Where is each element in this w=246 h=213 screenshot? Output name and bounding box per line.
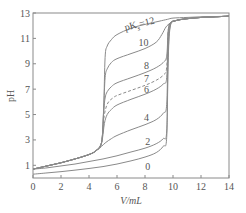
curve-pk-8 bbox=[33, 16, 229, 169]
curve-pk-10 bbox=[33, 16, 229, 169]
y-axis: 135791113 bbox=[20, 8, 36, 171]
label-value: =12 bbox=[138, 15, 156, 29]
y-axis-title: pH bbox=[5, 90, 16, 102]
y-tick-label: 11 bbox=[20, 33, 30, 44]
x-tick-label: 0 bbox=[31, 181, 36, 192]
curve-label: 8 bbox=[144, 60, 149, 71]
x-tick-label: 8 bbox=[143, 181, 148, 192]
curves bbox=[33, 16, 229, 174]
curve-labels: pKs=1210876420 bbox=[123, 15, 156, 173]
x-axis-title: V/mL bbox=[120, 195, 142, 206]
titration-chart: 02468101214 135791113 pKs=1210876420 V/m… bbox=[0, 0, 246, 213]
y-tick-label: 3 bbox=[25, 134, 30, 145]
y-tick-label: 13 bbox=[20, 8, 30, 19]
curve-pk-6 bbox=[33, 16, 229, 169]
y-tick-label: 1 bbox=[25, 160, 30, 171]
y-tick-label: 9 bbox=[25, 58, 30, 69]
x-tick-label: 14 bbox=[224, 181, 234, 192]
curve-label: 4 bbox=[144, 112, 149, 123]
curve-pk-12 bbox=[33, 16, 229, 169]
x-tick-label: 12 bbox=[196, 181, 206, 192]
curve-pk-4 bbox=[33, 16, 229, 169]
y-tick-label: 5 bbox=[25, 109, 30, 120]
curve-label: 10 bbox=[139, 37, 149, 48]
curve-label: 6 bbox=[144, 84, 149, 95]
x-tick-label: 2 bbox=[59, 181, 64, 192]
curve-label: 0 bbox=[145, 161, 150, 172]
curve-pk-7 bbox=[33, 16, 229, 169]
x-tick-label: 4 bbox=[87, 181, 92, 192]
curve-label-pks-12: pKs=12 bbox=[123, 15, 156, 36]
x-tick-label: 10 bbox=[168, 181, 178, 192]
plot-frame bbox=[33, 13, 229, 178]
curve-label: 2 bbox=[145, 136, 150, 147]
curve-pk-2 bbox=[33, 16, 229, 169]
x-tick-label: 6 bbox=[115, 181, 120, 192]
curve-pk-0 bbox=[33, 16, 229, 174]
curve-label: 7 bbox=[144, 73, 149, 84]
y-tick-label: 7 bbox=[25, 84, 30, 95]
